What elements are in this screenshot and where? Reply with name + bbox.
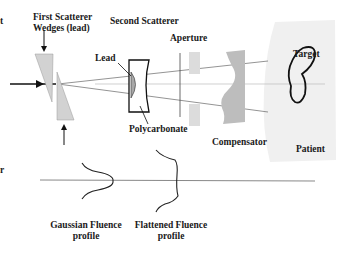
gaussian-profile-label-line1: Gaussian Fluence (46, 220, 126, 231)
first-scatterer-wedges (35, 30, 74, 145)
second-scatterer (118, 60, 149, 124)
gaussian-profile-curve (82, 163, 113, 199)
lead-label: Lead (95, 53, 116, 64)
compensator (221, 50, 245, 124)
flattened-profile-label-line2: profile (128, 231, 214, 242)
lower-wedge (57, 72, 74, 120)
flattened-profile-label-line1: Flattened Fluence (128, 220, 214, 231)
aperture (180, 52, 200, 126)
gaussian-profile-label-line2: profile (46, 231, 126, 242)
aperture-label: Aperture (170, 33, 207, 44)
polycarbonate-label: Polycarbonate (129, 124, 188, 135)
upper-wedge (35, 54, 53, 102)
fluence-axis (40, 180, 315, 181)
patient-label: Patient (296, 144, 325, 155)
second-scatterer-label: Second Scatterer (110, 16, 179, 27)
patient-region (264, 20, 336, 162)
aperture-lower-jaw (189, 104, 200, 126)
cut-off-label-top: t (0, 16, 3, 27)
cut-off-label-bottom: r (0, 165, 4, 176)
compensator-label: Compensator (212, 137, 267, 148)
target-label: Target (293, 49, 320, 60)
beamline-diagram: t r First Scatterer Wedges (lead) Second… (0, 0, 340, 256)
flattened-profile-curve (156, 150, 178, 212)
first-scatterer-label-line1: First Scatterer (33, 12, 92, 23)
first-scatterer-label-line2: Wedges (lead) (33, 23, 90, 34)
aperture-upper-jaw (189, 52, 200, 74)
